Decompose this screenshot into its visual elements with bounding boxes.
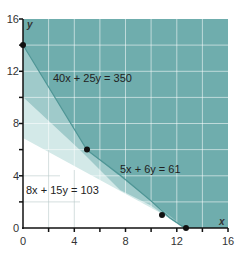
lp-chart: 0 4 8 12 16 0 4 8 12 16 y x 40x + 25y = …	[0, 0, 237, 262]
x-tick-16: 16	[222, 235, 234, 247]
y-tick-0: 0	[13, 222, 19, 234]
x-axis-label: x	[218, 216, 225, 227]
y-axis-label: y	[26, 19, 33, 30]
y-tick-8: 8	[13, 117, 19, 129]
x-tick-0: 0	[20, 235, 26, 247]
vertex-point-0-14	[20, 42, 26, 48]
x-tick-12: 12	[171, 235, 183, 247]
equation-label-2: 5x + 6y = 61	[120, 163, 181, 175]
equation-label-3: 8x + 15y = 103	[26, 184, 99, 196]
point-11-1	[159, 212, 165, 218]
vertex-point-5-6	[84, 147, 90, 153]
y-tick-4: 4	[13, 170, 19, 182]
x-tick-4: 4	[71, 235, 77, 247]
y-tick-16: 16	[7, 13, 19, 25]
vertex-point-13-0	[183, 225, 189, 231]
equation-label-1: 40x + 25y = 350	[53, 72, 132, 84]
y-tick-12: 12	[7, 65, 19, 77]
x-tick-8: 8	[122, 235, 128, 247]
